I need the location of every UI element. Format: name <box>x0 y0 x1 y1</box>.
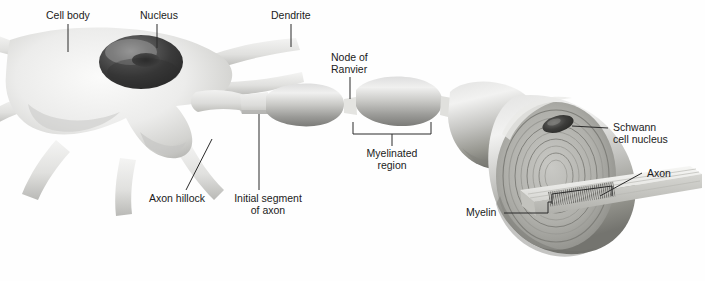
neuron-diagram: Cell body Nucleus Dendrite Node of Ranvi… <box>0 0 705 281</box>
myelin-internode-1 <box>266 84 344 127</box>
bracket-myelinated-region <box>353 122 431 146</box>
node-of-ranvier-1 <box>344 97 357 115</box>
myelin-internode-2 <box>356 77 442 127</box>
dendrite-lower-mid <box>115 158 136 216</box>
nucleus-rim-shadow <box>107 58 179 86</box>
label-node-of-ranvier: Node of Ranvier <box>331 52 368 75</box>
label-myelin: Myelin <box>466 207 496 219</box>
neuron-artwork <box>0 0 705 281</box>
dendrite-lower-left <box>22 140 70 200</box>
label-axon: Axon <box>647 168 671 180</box>
label-dendrite: Dendrite <box>271 10 311 22</box>
initial-segment-shadow <box>240 110 270 114</box>
label-myelinated-region: Myelinated region <box>336 148 448 171</box>
axon-hillock-group <box>191 90 270 114</box>
label-nucleus: Nucleus <box>140 10 178 22</box>
label-initial-segment: Initial segment of axon <box>224 193 312 216</box>
label-axon-hillock: Axon hillock <box>149 193 205 205</box>
myelinated-axon-group <box>266 77 702 257</box>
soma-group <box>0 28 304 217</box>
label-schwann-cell-nucleus: Schwann cell nucleus <box>613 122 668 145</box>
label-cell-body: Cell body <box>46 10 90 22</box>
